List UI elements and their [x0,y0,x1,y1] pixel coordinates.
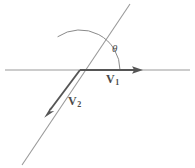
vector-v2-label-subscript: 2 [77,100,82,109]
vector-v2-label-letter: V [68,94,77,108]
vector-v1-label-letter: V [106,72,115,86]
vector-angle-diagram: V1 V2 θ [0,0,195,168]
vector-v2-label: V2 [68,95,81,109]
vector-v1-label-subscript: 1 [115,78,120,87]
angle-theta-label: θ [112,43,117,54]
vector-v1-label: V1 [106,73,119,87]
diagram-canvas [0,0,195,168]
angle-arc [58,30,120,70]
vector-v2-arrowhead [44,107,54,118]
